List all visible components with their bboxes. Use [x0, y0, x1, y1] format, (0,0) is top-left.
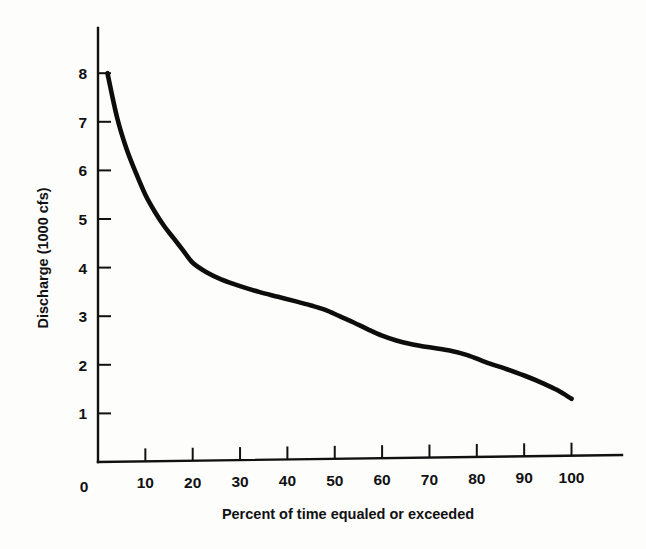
y-axis-tick-label: 8 [78, 65, 87, 82]
x-axis-tick-label: 90 [516, 469, 533, 486]
x-axis-tick-label: 30 [231, 473, 248, 490]
chart-figure: 12345678 102030405060708090100 0 Percent… [0, 0, 646, 549]
x-axis-origin-label: 0 [80, 478, 89, 495]
y-axis-tick-label: 4 [78, 260, 87, 277]
flow-duration-chart: 12345678 102030405060708090100 0 Percent… [0, 0, 646, 549]
x-axis-tick-label: 40 [279, 472, 296, 489]
y-axis-ticks: 12345678 [78, 65, 111, 422]
x-axis-tick-label: 80 [468, 470, 485, 487]
y-axis-tick-label: 5 [78, 211, 87, 228]
x-axis-tick-label: 10 [137, 474, 154, 491]
x-axis-title: Percent of time equaled or exceeded [222, 506, 474, 522]
y-axis-tick-label: 7 [78, 114, 87, 131]
x-axis-ticks: 102030405060708090100 [137, 443, 585, 492]
x-axis-tick-label: 100 [559, 469, 585, 486]
y-axis-title: Discharge (1000 cfs) [35, 187, 51, 328]
x-axis-line [98, 455, 622, 462]
flow-duration-curve [107, 73, 571, 399]
x-axis-tick-label: 70 [421, 471, 438, 488]
x-axis-tick-label: 50 [326, 472, 343, 489]
y-axis-tick-label: 3 [78, 308, 87, 325]
x-axis-tick-label: 60 [373, 471, 390, 488]
y-axis-tick-label: 2 [78, 357, 87, 374]
x-axis-tick-label: 20 [184, 474, 201, 491]
y-axis-tick-label: 1 [78, 405, 87, 422]
y-axis-tick-label: 6 [78, 162, 87, 179]
